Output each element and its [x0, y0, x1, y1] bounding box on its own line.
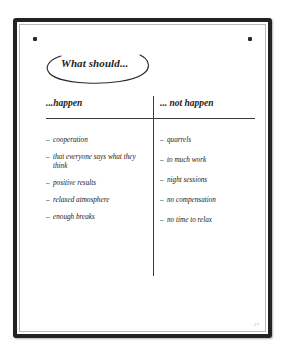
list-should-not-happen: quarrels to much work night sessions no …	[160, 136, 258, 236]
column-should-not-happen: ... not happen quarrels to much work nig…	[160, 98, 258, 108]
column-header-right: ... not happen	[160, 98, 258, 108]
list-item: cooperation	[46, 136, 146, 145]
list-item: enough breaks	[46, 213, 146, 222]
flipchart-board: What should... ...happen cooperation tha…	[13, 18, 272, 338]
list-item: night sessions	[160, 176, 258, 185]
list-item: to much work	[160, 156, 258, 165]
flipchart-sheet: What should... ...happen cooperation tha…	[21, 26, 264, 330]
top-left-magnet-icon	[33, 37, 37, 41]
list-item: positive results	[46, 179, 146, 188]
page-number: 27	[254, 322, 259, 327]
list-item: quarrels	[160, 136, 258, 145]
horizontal-divider	[46, 118, 255, 119]
vertical-divider	[153, 96, 154, 276]
list-item: no time to relax	[160, 216, 258, 225]
list-should-happen: cooperation that everyone says what they…	[46, 136, 146, 230]
top-right-magnet-icon	[248, 37, 252, 41]
title-block: What should...	[39, 48, 159, 88]
list-item: relaxed atmosphere	[46, 196, 146, 205]
list-item: that everyone says what they think	[46, 153, 146, 171]
page-title: What should...	[61, 57, 128, 69]
column-header-left: ...happen	[46, 98, 146, 108]
column-should-happen: ...happen cooperation that everyone says…	[46, 98, 146, 108]
list-item: no compensation	[160, 196, 258, 205]
